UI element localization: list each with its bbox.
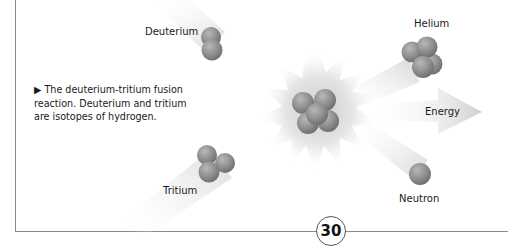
deuterium-nucleus — [201, 27, 223, 61]
caption-text: The deuterium-tritium fusion reaction. D… — [34, 84, 187, 122]
tritium-label: Tritium — [163, 185, 197, 196]
fusion-diagram — [0, 0, 508, 247]
helium-label: Helium — [414, 18, 449, 29]
neutron-particle — [409, 163, 431, 185]
page-number: 30 — [321, 222, 342, 240]
fused-nucleus — [292, 89, 339, 134]
figure-caption: ▶ The deuterium-tritium fusion reaction.… — [34, 83, 194, 124]
neutron-label: Neutron — [399, 193, 439, 204]
deuterium-label: Deuterium — [145, 26, 198, 37]
page-number-badge: 30 — [316, 216, 346, 246]
caption-marker-icon: ▶ — [34, 84, 41, 95]
energy-label: Energy — [425, 106, 460, 117]
